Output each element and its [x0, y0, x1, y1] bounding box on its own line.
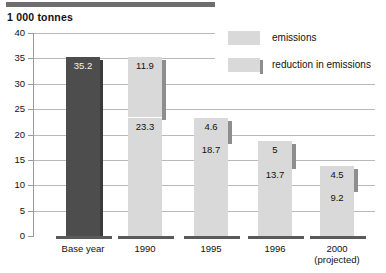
bar-segment-reduction: 11.9 [128, 57, 162, 117]
bar-segment-emissions: 18.7 [194, 141, 228, 236]
legend-swatch [228, 31, 260, 45]
bar-shadow [354, 169, 358, 192]
y-tick-0 [28, 236, 34, 237]
y-tick-5 [28, 211, 34, 212]
bar-pedestal [184, 236, 240, 239]
y-tick-15 [28, 160, 34, 161]
bar-value-label-emissions: 23.3 [128, 121, 162, 132]
bar-segment-emissions: 9.2 [320, 189, 354, 236]
bar-value-label-reduction: 4.6 [194, 121, 228, 132]
x-axis-category-label-line: 2000 [296, 243, 378, 254]
bar-segment-emissions: 23.3 [128, 118, 162, 236]
y-tick-label-40: 40 [3, 27, 25, 38]
bar-segment-emissions: 13.7 [258, 166, 292, 236]
y-tick-label-30: 30 [3, 78, 25, 89]
bar-value-label-emissions: 9.2 [320, 192, 354, 203]
y-tick-40 [28, 33, 34, 34]
y-tick-label-0: 0 [3, 230, 25, 241]
bar-pedestal [310, 236, 366, 239]
y-tick-35 [28, 58, 34, 59]
y-tick-10 [28, 185, 34, 186]
bar-value-label-reduction: 4.5 [320, 169, 354, 180]
legend-swatch [228, 58, 260, 72]
bar-value-label-emissions: 35.2 [66, 60, 100, 71]
legend-label: emissions [272, 32, 316, 43]
bar-pedestal [248, 236, 304, 239]
y-tick-20 [28, 135, 34, 136]
x-axis-category-label-line: (projected) [296, 254, 378, 265]
x-axis-category-label: 2000(projected) [296, 243, 378, 265]
y-tick-label-5: 5 [3, 205, 25, 216]
bar-value-label-reduction: 11.9 [128, 60, 162, 71]
legend-label: reduction in emissions [272, 59, 371, 70]
bar-segment-reduction: 4.5 [320, 166, 354, 189]
y-tick-30 [28, 84, 34, 85]
bar-value-label-emissions: 13.7 [258, 169, 292, 180]
bar-segment-reduction: 4.6 [194, 118, 228, 141]
bar-value-label-emissions: 18.7 [194, 144, 228, 155]
bar-value-label-reduction: 5 [258, 144, 292, 155]
bar-pedestal [56, 236, 112, 239]
bar-pedestal [118, 236, 174, 239]
gridline-35 [34, 58, 215, 59]
y-tick-label-10: 10 [3, 179, 25, 190]
bar-shadow [100, 60, 103, 236]
y-tick-label-35: 35 [3, 52, 25, 63]
bar-shadow [228, 121, 232, 144]
gridline-40 [34, 33, 215, 34]
legend-swatch-shadow [260, 60, 263, 74]
bar-segment-emissions: 35.2 [66, 57, 100, 236]
chart-figure: 1 000 tonnes 0510152025303540 35.223.311… [0, 0, 386, 273]
y-tick-label-20: 20 [3, 129, 25, 140]
bar-shadow [292, 144, 296, 169]
y-tick-label-25: 25 [3, 103, 25, 114]
bar-segment-reduction: 5 [258, 141, 292, 166]
plot-area: 0510152025303540 35.223.311.918.74.613.7… [0, 0, 386, 273]
y-tick-25 [28, 109, 34, 110]
y-tick-label-15: 15 [3, 154, 25, 165]
bar-shadow [162, 60, 166, 120]
